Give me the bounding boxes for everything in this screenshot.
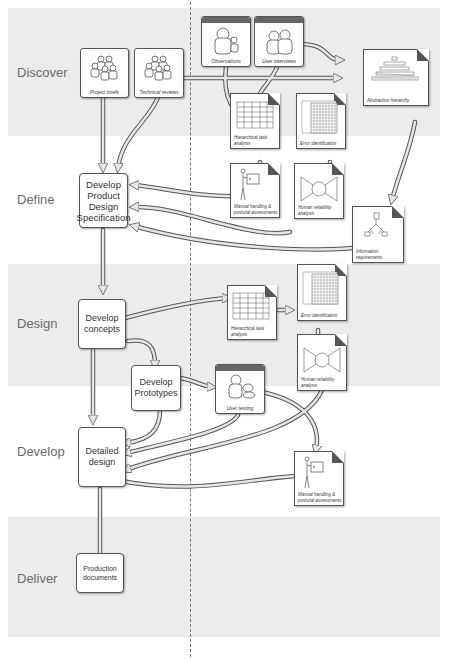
process-develop-concepts[interactable]: Develop concepts (78, 299, 126, 349)
observer-icon (207, 26, 247, 58)
source-observations[interactable]: Observations (201, 16, 251, 67)
doc-label: Information requirements (356, 249, 403, 260)
source-label: Project briefs (81, 89, 128, 95)
two-people-icon (260, 26, 300, 58)
people-group-icon (83, 53, 128, 85)
page-fold (268, 163, 280, 175)
doc-label: Human reliability analysis (301, 377, 346, 388)
process-develop-pds[interactable]: Develop Product Design Specification (79, 173, 128, 228)
doc-hta-2[interactable]: Hierarchical task analysis (227, 285, 277, 340)
bowtie-icon (302, 345, 342, 375)
process-production-documents[interactable]: Production documents (76, 553, 124, 593)
person-lifting-icon (301, 456, 331, 490)
source-label: User testing (216, 405, 264, 411)
dense-grid-icon (301, 100, 339, 134)
doc-information-requirements[interactable]: Information requirements (352, 206, 404, 263)
doc-label: Error identification (301, 313, 346, 319)
hierarchy-pyramid-icon (370, 56, 420, 84)
process-develop-prototypes[interactable]: Develop Prototypes (131, 365, 181, 411)
source-user-testing[interactable]: User testing (215, 364, 265, 414)
doc-label: Manual handling & postural assessments (234, 204, 279, 215)
source-header-bar (216, 365, 264, 371)
doc-manual-handling-1[interactable]: Manual handling & postural assessments (230, 163, 280, 218)
process-label: Production documents (77, 564, 123, 582)
process-label: Develop Prototypes (132, 377, 180, 399)
source-user-interviews[interactable]: User interviews (254, 16, 304, 67)
doc-label: Hierarchical task analysis (231, 326, 276, 337)
doc-label: Error identification (300, 141, 345, 147)
doc-hta-1[interactable]: Hierarchical task analysis (230, 93, 280, 149)
doc-human-reliability-2[interactable]: Human reliability analysis (297, 334, 347, 391)
process-label: Develop concepts (79, 313, 125, 335)
page-fold (392, 206, 404, 218)
process-detailed-design[interactable]: Detailed design (78, 427, 126, 487)
source-header-bar (202, 17, 250, 23)
table-grid-icon (236, 101, 274, 129)
doc-error-identification-1[interactable]: Error identification (296, 93, 346, 149)
source-project-briefs[interactable]: Project briefs (80, 48, 129, 98)
person-lifting-icon (237, 168, 267, 202)
doc-error-identification-2[interactable]: Error identification (297, 264, 347, 321)
doc-label: Abstraction hierarchy (367, 98, 428, 104)
user-testing-icon (221, 373, 261, 403)
dense-grid-icon (302, 271, 340, 305)
tree-diagram-icon (362, 212, 392, 242)
table-grid-icon (232, 292, 270, 320)
doc-label: Hierarchical task analysis (234, 135, 279, 146)
doc-abstraction-hierarchy[interactable]: Abstraction hierarchy (363, 49, 429, 106)
process-label: Develop Product Design Specification (77, 179, 131, 223)
people-group-icon (137, 53, 182, 85)
source-label: User interviews (255, 58, 303, 64)
source-technical-reviews[interactable]: Technical reviews (134, 48, 184, 98)
source-label: Technical reviews (135, 89, 183, 95)
process-label: Detailed design (79, 446, 125, 468)
doc-label: Human reliability analysis (298, 205, 343, 216)
doc-manual-handling-2[interactable]: Manual handling & postural assessments (294, 451, 344, 506)
doc-label: Manual handling & postural assessments (298, 492, 343, 503)
source-header-bar (255, 17, 303, 23)
source-label: Observations (202, 58, 250, 64)
page-fold (332, 451, 344, 463)
doc-human-reliability-1[interactable]: Human reliability analysis (294, 163, 344, 219)
bowtie-icon (299, 174, 339, 204)
